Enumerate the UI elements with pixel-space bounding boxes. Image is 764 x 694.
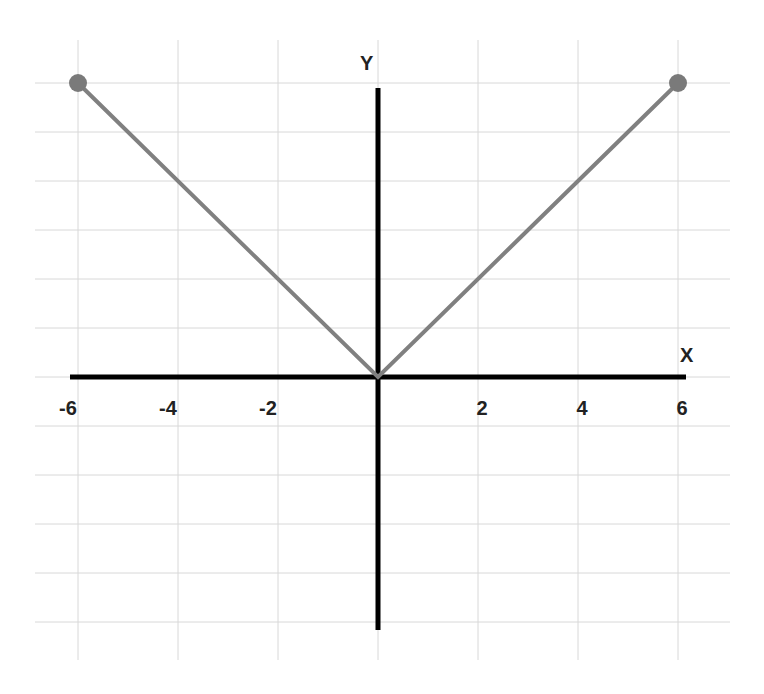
x-tick-label: -2 <box>259 397 277 419</box>
x-axis-label: X <box>680 344 694 366</box>
endpoint-marker <box>69 74 87 92</box>
x-tick-label: -6 <box>59 397 77 419</box>
graph-canvas: -6-4-2246 Y X <box>0 0 764 694</box>
endpoint-marker <box>669 74 687 92</box>
x-tick-label: 2 <box>476 397 487 419</box>
axes <box>70 88 686 630</box>
x-tick-labels: -6-4-2246 <box>59 397 687 419</box>
x-tick-label: 6 <box>676 397 687 419</box>
x-tick-label: 4 <box>576 397 588 419</box>
y-axis-label: Y <box>360 52 374 74</box>
x-tick-label: -4 <box>159 397 178 419</box>
